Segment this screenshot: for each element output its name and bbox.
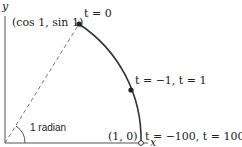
label-t-minus100-t100: t = −100, t = 100 xyxy=(145,130,242,143)
label-1-0: (1, 0) xyxy=(108,130,138,143)
point-t100-open xyxy=(139,141,144,146)
parametric-curve xyxy=(79,24,141,143)
label-cos1-sin1: (cos 1, sin 1) xyxy=(12,16,83,29)
y-axis-label: y xyxy=(1,0,9,13)
label-t-minus1-t1: t = −1, t = 1 xyxy=(135,74,206,87)
point-t1 xyxy=(128,87,133,92)
parametric-arc-diagram: y x (cos 1, sin 1) t = 0 t = −1, t = 1 (… xyxy=(0,0,242,147)
label-t0: t = 0 xyxy=(84,7,112,20)
angle-label: 1 radian xyxy=(30,122,66,133)
angle-arc xyxy=(16,126,25,143)
